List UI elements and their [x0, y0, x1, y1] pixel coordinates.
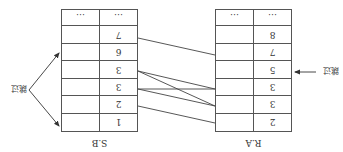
skip-arrow-right-lower	[29, 53, 59, 90]
link-7-7	[138, 38, 215, 55]
link-3-3	[138, 71, 215, 89]
skip-label-left: 跳过	[323, 66, 339, 77]
link-3-3	[138, 89, 215, 106]
merge-join-diagram: R.A 2 3 3 5 7 8 …… S.B 1 2 3 3 6 7 ……	[0, 0, 343, 152]
skip-arrow-right-upper	[29, 90, 59, 126]
join-links	[0, 0, 343, 152]
skip-label-right: 跳过	[11, 84, 27, 95]
link-3-3	[138, 71, 215, 106]
link-2-2	[138, 106, 215, 123]
